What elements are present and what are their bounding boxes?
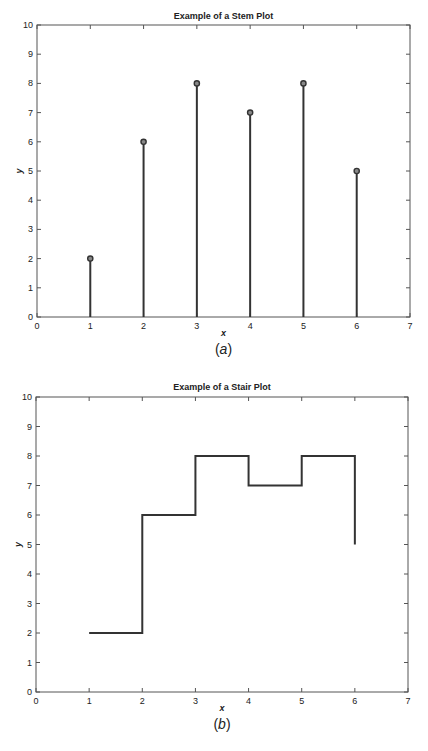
- y-tick-label: 5: [28, 166, 33, 176]
- y-tick-label: 7: [27, 481, 32, 491]
- stem-marker: [141, 139, 146, 144]
- x-tick-label: 1: [87, 696, 92, 706]
- y-tick-label: 2: [28, 254, 33, 264]
- x-axis-label: x: [220, 328, 227, 338]
- stem-marker: [248, 110, 253, 115]
- stem-marker: [301, 81, 306, 86]
- x-axis-label: x: [218, 703, 225, 713]
- stem-marker: [88, 256, 93, 261]
- x-tick-label: 5: [301, 321, 306, 331]
- y-tick-label: 9: [28, 49, 33, 59]
- x-tick-label: 1: [88, 321, 93, 331]
- y-tick-label: 0: [27, 687, 32, 697]
- y-tick-label: 9: [27, 422, 32, 432]
- y-tick-label: 8: [27, 451, 32, 461]
- y-tick-label: 6: [27, 510, 32, 520]
- axes-box: [36, 397, 408, 692]
- y-axis-label: y: [14, 168, 24, 175]
- x-tick-label: 6: [352, 696, 357, 706]
- y-tick-label: 10: [23, 20, 33, 30]
- x-tick-label: 3: [194, 321, 199, 331]
- stair-plot: 01234567012345678910Example of a Stair P…: [13, 382, 411, 732]
- chart-title: Example of a Stem Plot: [174, 11, 274, 21]
- y-tick-label: 1: [27, 658, 32, 668]
- y-tick-label: 10: [22, 392, 32, 402]
- x-tick-label: 4: [248, 321, 253, 331]
- x-tick-label: 4: [246, 696, 251, 706]
- x-tick-label: 2: [140, 696, 145, 706]
- y-tick-label: 7: [28, 108, 33, 118]
- x-tick-label: 7: [407, 321, 412, 331]
- y-tick-label: 1: [28, 283, 33, 293]
- y-axis-label: y: [13, 541, 23, 548]
- x-tick-label: 0: [33, 696, 38, 706]
- y-tick-label: 0: [28, 312, 33, 322]
- x-tick-label: 5: [299, 696, 304, 706]
- x-tick-label: 3: [193, 696, 198, 706]
- x-tick-label: 0: [34, 321, 39, 331]
- y-tick-label: 6: [28, 137, 33, 147]
- chart-title: Example of a Stair Plot: [173, 382, 271, 392]
- x-tick-label: 2: [141, 321, 146, 331]
- y-tick-label: 4: [28, 195, 33, 205]
- x-tick-label: 6: [354, 321, 359, 331]
- stem-marker: [194, 81, 199, 86]
- figure: 01234567012345678910Example of a Stem Pl…: [0, 0, 428, 751]
- figure-caption: (a): [215, 341, 232, 357]
- y-tick-label: 3: [28, 224, 33, 234]
- y-tick-label: 4: [27, 569, 32, 579]
- y-tick-label: 5: [27, 540, 32, 550]
- y-tick-label: 3: [27, 599, 32, 609]
- stem-marker: [354, 168, 359, 173]
- y-tick-label: 8: [28, 78, 33, 88]
- figure-caption: (b): [213, 716, 230, 732]
- x-tick-label: 7: [405, 696, 410, 706]
- y-tick-label: 2: [27, 628, 32, 638]
- stair-line: [89, 456, 355, 633]
- stem-plot: 01234567012345678910Example of a Stem Pl…: [14, 11, 413, 357]
